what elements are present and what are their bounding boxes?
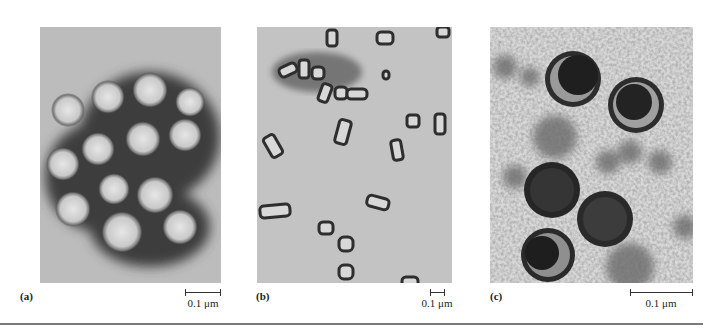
scale-bar-b: 0.1 μm xyxy=(417,289,457,309)
panel-label-b: (b) xyxy=(256,290,269,302)
micrograph-c-image xyxy=(490,27,693,283)
scale-bar-a-text: 0.1 μm xyxy=(183,297,223,309)
scale-bar-c: 0.1 μm xyxy=(629,289,693,309)
bottom-rule-divider xyxy=(0,323,703,325)
panel-label-c: (c) xyxy=(490,290,502,302)
micrograph-a xyxy=(40,27,221,283)
scale-bar-b-line xyxy=(430,289,445,296)
scale-bar-c-text: 0.1 μm xyxy=(629,297,693,309)
scale-bar-c-line xyxy=(630,289,693,296)
micrograph-b-image xyxy=(257,27,452,283)
scale-bar-a-line xyxy=(185,289,221,296)
scale-bar-a: 0.1 μm xyxy=(183,289,223,309)
micrograph-c xyxy=(490,27,693,283)
panel-label-a: (a) xyxy=(20,290,33,302)
micrograph-b xyxy=(257,27,452,283)
scale-bar-b-text: 0.1 μm xyxy=(417,297,457,309)
micrograph-a-image xyxy=(40,27,221,283)
